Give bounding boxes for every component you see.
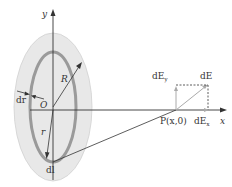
y-axis-label: y [41, 9, 48, 19]
dey-label: dEy [152, 71, 168, 83]
origin-label: O [40, 100, 48, 110]
x-axis-label: x [220, 116, 225, 126]
dr-label: dr [16, 95, 27, 105]
dex-arrow-icon [204, 108, 209, 112]
dey-arrow-icon [174, 86, 178, 91]
x-axis-arrow-icon [220, 108, 227, 113]
point-label: P(x,0) [160, 116, 187, 126]
y-axis-arrow-icon [51, 9, 56, 16]
ring-field-diagram: y x O R dr r dl P(x,0) dE dEy dEx [0, 0, 232, 187]
dl-label: dl [46, 165, 55, 175]
dex-label: dEx [194, 116, 210, 127]
de-label: dE [200, 71, 212, 81]
radius-label: R [60, 74, 68, 84]
r-label: r [41, 127, 46, 137]
de-vector [176, 86, 206, 110]
